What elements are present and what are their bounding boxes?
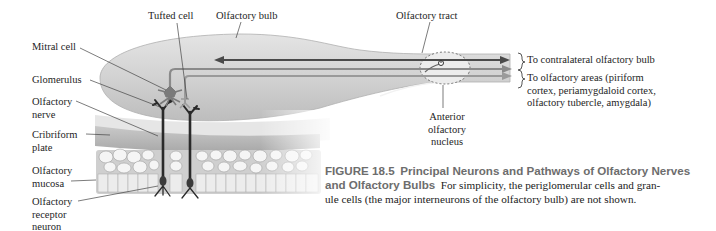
label-glomerulus: Glomerulus [32,74,82,87]
label-cribriform-plate: Cribriform plate [32,129,78,154]
label-olfactory-mucosa: Olfactory mucosa [32,165,72,190]
label-olfactory-tract: Olfactory tract [396,10,458,23]
label-olfactory-nerve: Olfactory nerve [32,96,72,121]
label-anterior-olfactory-nucleus: Anterior olfactory nucleus [428,111,466,149]
label-tufted-cell: Tufted cell [148,10,193,23]
label-to-contralateral-bulb: To contralateral olfactory bulb [527,54,655,67]
destination-braces [518,53,525,88]
label-mitral-cell: Mitral cell [32,41,76,54]
figure-caption: FIGURE 18.5 Principal Neurons and Pathwa… [325,164,715,206]
label-olfactory-receptor-neuron: Olfactory receptor neuron [32,196,72,231]
label-olfactory-bulb: Olfactory bulb [216,10,278,23]
label-to-olfactory-areas: To olfactory areas (piriform cortex, per… [527,72,656,110]
figure-stage: Tufted cell Olfactory bulb Olfactory tra… [0,0,716,231]
figure-title-line-1: Principal Neurons and Pathways of Olfact… [400,164,690,177]
caption-body-line-2: ule cells (the major interneurons of the… [325,193,636,205]
figure-number: FIGURE 18.5 [325,164,395,177]
caption-body-line-1: For simplicity, the periglomerular cells… [441,179,661,191]
figure-title-line-2: and Olfactory Bulbs [325,178,435,191]
